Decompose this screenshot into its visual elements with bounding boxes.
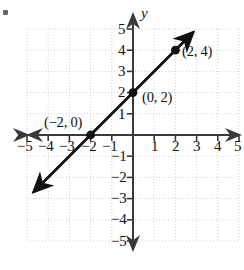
point-marker-2-4 — [171, 46, 180, 55]
point-label-2-4: (2, 4) — [182, 44, 212, 59]
point-label-0-2: (0, 2) — [142, 90, 172, 105]
x-tick-label-4: 4 — [214, 139, 221, 154]
coordinate-plane — [0, 0, 244, 270]
y-tick-label-1: 1 — [118, 107, 125, 122]
x-tick-label-neg4: −4 — [38, 139, 53, 154]
x-tick-label-neg2: −2 — [81, 139, 96, 154]
x-tick-label-2: 2 — [172, 139, 179, 154]
x-tick-label-neg3: −3 — [59, 139, 74, 154]
x-tick-label-3: 3 — [193, 139, 200, 154]
point-marker-0-2 — [129, 88, 138, 97]
y-tick-label-2: 2 — [118, 85, 125, 100]
y-tick-label-neg5: −5 — [111, 234, 126, 249]
x-tick-label-5: 5 — [234, 139, 241, 154]
x-tick-label-1: 1 — [151, 139, 158, 154]
y-tick-label-3: 3 — [118, 64, 125, 79]
y-tick-label-neg3: −3 — [111, 191, 126, 206]
point-label-neg2-0: (−2, 0) — [44, 115, 82, 130]
y-tick-label-neg4: −4 — [111, 212, 126, 227]
x-tick-label-neg5: −5 — [17, 139, 32, 154]
graph-figure: y −5 −4 −3 −2 −1 1 2 3 4 5 5 4 3 2 1 −1 … — [0, 0, 244, 270]
y-axis-label: y — [141, 6, 148, 21]
y-tick-label-4: 4 — [118, 43, 125, 58]
y-tick-label-5: 5 — [118, 22, 125, 37]
y-tick-label-neg2: −2 — [111, 170, 126, 185]
y-tick-label-neg1: −1 — [111, 149, 126, 164]
